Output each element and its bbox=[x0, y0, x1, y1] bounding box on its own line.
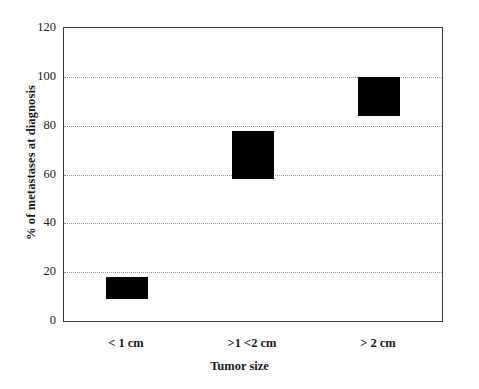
bar-gt-2cm bbox=[358, 77, 400, 116]
x-tick-label-1-to-2cm: >1 <2 cm bbox=[187, 336, 317, 351]
y-tick-label-100: 100 bbox=[10, 70, 56, 83]
y-tick-label-20: 20 bbox=[10, 265, 56, 278]
x-tick-label-gt-2cm: > 2 cm bbox=[313, 336, 443, 351]
bar-1-to-2cm bbox=[232, 131, 274, 180]
x-tick-label-lt-1cm: < 1 cm bbox=[61, 336, 191, 351]
gridline-80 bbox=[64, 126, 442, 127]
y-tick-label-120: 120 bbox=[10, 21, 56, 34]
gridline-40 bbox=[64, 223, 442, 224]
y-tick-label-40: 40 bbox=[10, 216, 56, 229]
x-axis-title: Tumor size bbox=[0, 359, 479, 374]
y-tick-label-80: 80 bbox=[10, 119, 56, 132]
bar-chart-figure: % of metastases at diagnosis 120 100 80 … bbox=[0, 0, 479, 389]
y-tick-label-0: 0 bbox=[10, 314, 56, 327]
y-tick-label-60: 60 bbox=[10, 168, 56, 181]
bar-lt-1cm bbox=[106, 277, 148, 299]
gridline-20 bbox=[64, 272, 442, 273]
plot-area bbox=[63, 27, 443, 322]
